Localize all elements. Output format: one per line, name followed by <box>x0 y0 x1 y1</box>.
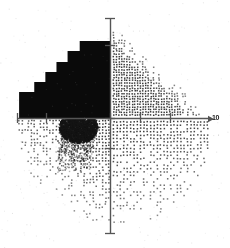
scanned-scatter-figure: 10 <box>0 0 230 248</box>
x-axis-end-label: 10 <box>212 114 219 121</box>
scatter-plot-canvas <box>0 0 230 248</box>
